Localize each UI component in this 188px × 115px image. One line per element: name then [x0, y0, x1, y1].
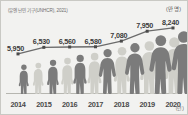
value-label: 7,950 — [136, 21, 153, 30]
person-figure-icon — [17, 64, 31, 94]
axis-unit-label: (년) — [176, 104, 184, 111]
value-label: 6,560 — [59, 37, 76, 46]
x-tick-label: 2014 — [10, 100, 25, 109]
value-label: 6,580 — [85, 37, 102, 46]
person-figure-icon — [45, 59, 61, 94]
person-figure-icon — [97, 48, 118, 94]
value-label: 5,950 — [7, 44, 24, 53]
value-label: 8,240 — [162, 18, 179, 27]
person-figure-icon — [31, 62, 46, 94]
x-tick-label: 2017 — [88, 100, 103, 109]
value-label: 6,530 — [33, 37, 50, 46]
refugee-population-chart: (유엔 난민 기구(UNHCR), 2021) (만 명) 5,9506,530… — [0, 0, 188, 115]
person-figure-icon — [123, 42, 147, 94]
x-axis: 2014201520162017201820192020 — [1, 97, 188, 111]
x-tick-label: 2015 — [36, 100, 51, 109]
x-tick-label: 2016 — [62, 100, 77, 109]
x-tick-label: 2019 — [140, 100, 155, 109]
x-tick-label: 2018 — [114, 100, 129, 109]
person-figure-icon — [169, 30, 188, 94]
person-figure-icon — [71, 54, 89, 94]
value-label: 7,080 — [110, 31, 127, 40]
